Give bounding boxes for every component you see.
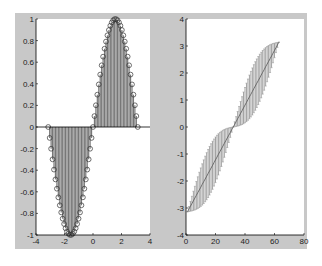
- y-tick-label: -2: [177, 177, 185, 186]
- figure-canvas: -4-2024-1-0.8-0.6-0.4-0.200.20.40.60.81 …: [0, 0, 322, 266]
- y-tick-label: -1: [27, 231, 35, 240]
- y-tick-label: -0.2: [20, 145, 34, 154]
- y-tick-label: -0.8: [20, 209, 34, 218]
- y-tick-label: 1: [180, 96, 185, 105]
- y-tick-label: -1: [177, 150, 185, 159]
- x-tick-label: 4: [148, 237, 153, 246]
- x-tick-label: 2: [119, 237, 124, 246]
- x-tick-label: 0: [184, 237, 189, 246]
- y-tick-label: 0.8: [23, 37, 35, 46]
- y-tick-label: 4: [180, 15, 185, 24]
- x-tick-label: -2: [61, 237, 69, 246]
- y-tick-label: 0.2: [23, 101, 35, 110]
- y-tick-label: 1: [30, 15, 35, 24]
- y-tick-label: -3: [177, 204, 185, 213]
- errorbar-plot-axes: 020406080-4-3-2-101234: [177, 15, 309, 246]
- y-tick-label: -0.6: [20, 188, 34, 197]
- bottom-margin: [0, 249, 322, 266]
- x-tick-label: 80: [300, 237, 309, 246]
- x-tick-label: 40: [241, 237, 250, 246]
- x-tick-label: 20: [211, 237, 220, 246]
- x-tick-label: 60: [270, 237, 279, 246]
- y-tick-label: 0.6: [23, 58, 35, 67]
- y-tick-label: 3: [180, 42, 185, 51]
- y-tick-label: 0: [180, 123, 185, 132]
- y-tick-label: 0: [30, 123, 35, 132]
- y-tick-label: -4: [177, 231, 185, 240]
- y-tick-label: 2: [180, 69, 185, 78]
- y-tick-label: -0.4: [20, 166, 34, 175]
- x-tick-label: 0: [91, 237, 96, 246]
- y-tick-label: 0.4: [23, 80, 35, 89]
- stem-plot-axes: -4-2024-1-0.8-0.6-0.4-0.200.20.40.60.81: [20, 15, 153, 246]
